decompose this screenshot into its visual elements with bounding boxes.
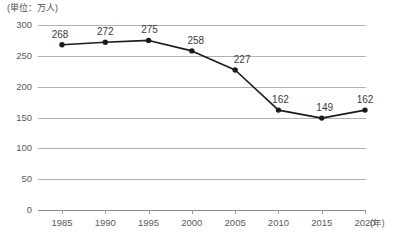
data-point-label-2010: 162 bbox=[260, 94, 300, 105]
data-point-2010 bbox=[276, 107, 281, 112]
data-point-1990 bbox=[103, 40, 108, 45]
data-point-label-1985: 268 bbox=[40, 29, 80, 40]
data-point-label-1990: 272 bbox=[85, 26, 125, 37]
data-point-2015 bbox=[319, 115, 324, 120]
data-point-2020 bbox=[362, 107, 367, 112]
line-chart: (単位：万人) 300250200150100500 1985199019952… bbox=[0, 0, 398, 245]
data-point-1995 bbox=[146, 38, 151, 43]
data-point-1985 bbox=[59, 42, 64, 47]
data-point-2005 bbox=[232, 67, 237, 72]
data-point-2000 bbox=[189, 48, 194, 53]
data-point-label-2000: 258 bbox=[176, 35, 216, 46]
data-point-label-2020: 162 bbox=[345, 94, 385, 105]
data-point-label-2005: 227 bbox=[222, 54, 262, 65]
data-point-label-1995: 275 bbox=[130, 24, 170, 35]
data-point-label-2015: 149 bbox=[305, 102, 345, 113]
